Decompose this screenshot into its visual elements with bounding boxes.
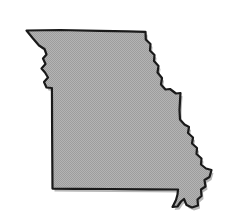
state-outline-map: Missouri Outline map of the state of Mis… [0,0,238,224]
map-canvas: Missouri Outline map of the state of Mis… [0,0,238,224]
state-fill [27,30,212,208]
